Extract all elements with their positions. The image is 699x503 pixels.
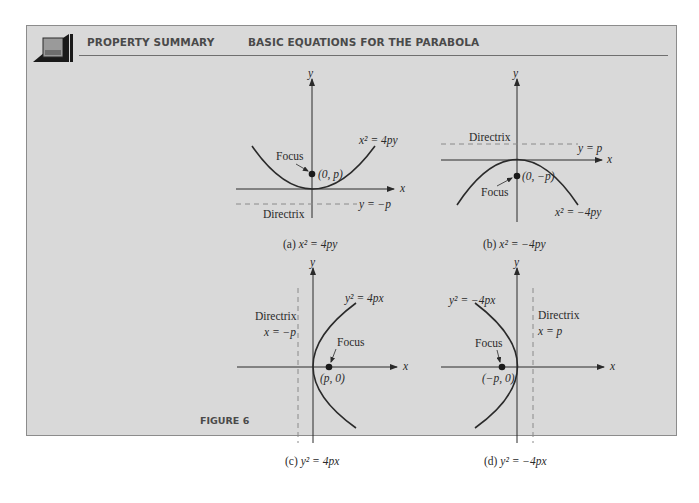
focus-arrow bbox=[296, 164, 308, 171]
parabola-diagrams: x y Focus (0, p) x² = 4py y = −p Directr… bbox=[0, 0, 699, 503]
focus-label: Focus bbox=[475, 337, 503, 349]
caption-b: (b) x² = −4py bbox=[483, 238, 547, 251]
directrix-label: Directrix bbox=[469, 131, 511, 143]
focus-coordinates: (−p, 0) bbox=[482, 372, 515, 385]
parabola-curve bbox=[313, 303, 356, 428]
focus-label: Focus bbox=[276, 150, 304, 162]
directrix-equation: y = p bbox=[577, 142, 603, 155]
diagram-d: x y Focus (−p, 0) y² = −4px Directrix x … bbox=[441, 256, 616, 468]
x-axis-label: x bbox=[399, 182, 406, 194]
directrix-label: Directrix bbox=[538, 309, 580, 321]
caption-d: (d) y² = −4px bbox=[484, 455, 548, 468]
x-axis-label: x bbox=[606, 153, 613, 165]
focus-arrow bbox=[331, 349, 336, 362]
focus-point bbox=[514, 173, 521, 180]
focus-point bbox=[499, 364, 506, 371]
y-axis-label: y bbox=[512, 67, 519, 80]
caption-a: (a) x² = 4py bbox=[283, 238, 338, 251]
focus-label: Focus bbox=[481, 186, 509, 198]
y-axis-label: y bbox=[309, 256, 316, 269]
focus-point bbox=[326, 364, 333, 371]
diagram-c: x y Focus (p, 0) y² = 4px Directrix x = … bbox=[237, 256, 409, 468]
x-axis-label: x bbox=[609, 360, 616, 372]
equation-label: y² = 4px bbox=[344, 292, 385, 305]
directrix-equation: x = −p bbox=[263, 326, 296, 339]
equation-label: y² = −4px bbox=[448, 294, 496, 307]
x-axis-label: x bbox=[402, 360, 409, 372]
caption-c: (c) y² = 4px bbox=[285, 455, 340, 468]
focus-label: Focus bbox=[337, 336, 365, 348]
y-axis-label: y bbox=[307, 67, 314, 80]
focus-coordinates: (0, p) bbox=[318, 168, 343, 181]
focus-arrow bbox=[497, 350, 500, 362]
focus-coordinates: (0, −p) bbox=[522, 170, 555, 183]
diagram-b: x y Focus (0, −p) x² = −4py y = p Direct… bbox=[441, 67, 613, 251]
directrix-label: Directrix bbox=[255, 310, 297, 322]
focus-point bbox=[309, 171, 316, 178]
directrix-label: Directrix bbox=[263, 208, 305, 220]
y-axis-label: y bbox=[513, 256, 520, 269]
diagram-a: x y Focus (0, p) x² = 4py y = −p Directr… bbox=[236, 67, 406, 251]
focus-coordinates: (p, 0) bbox=[320, 372, 345, 385]
directrix-equation: x = p bbox=[537, 325, 563, 338]
parabola-curve bbox=[475, 303, 518, 428]
parabola-curve bbox=[252, 146, 375, 189]
focus-arrow bbox=[497, 178, 512, 186]
equation-label: x² = 4py bbox=[358, 134, 399, 147]
equation-label: x² = −4py bbox=[554, 206, 602, 219]
directrix-equation: y = −p bbox=[358, 198, 391, 211]
